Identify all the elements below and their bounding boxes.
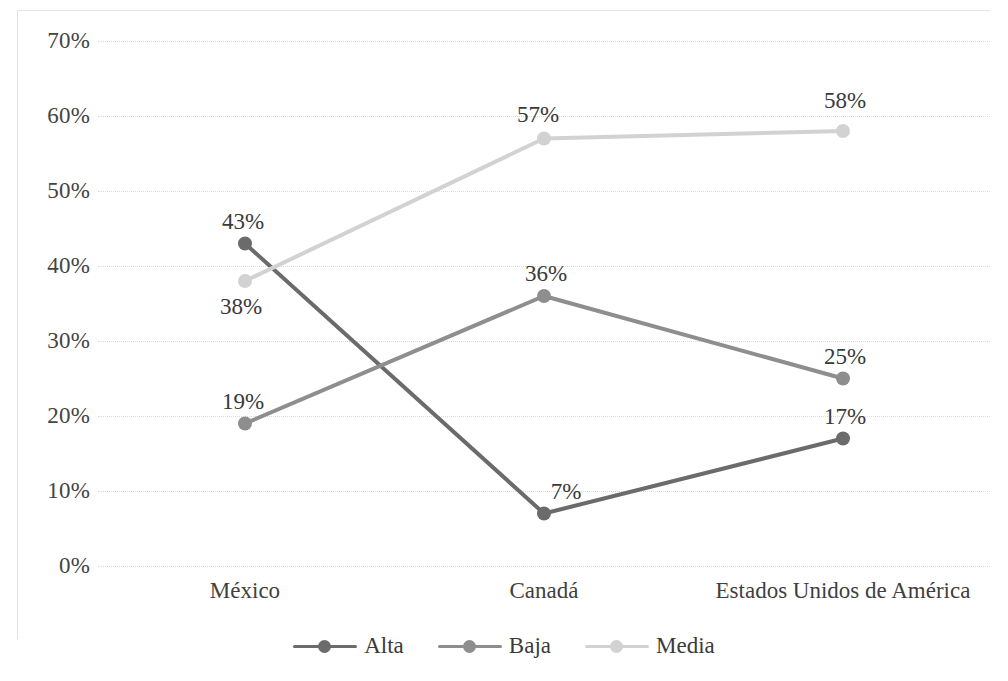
data-value-label: 57% [478,103,598,126]
chart-legend: AltaBajaMedia [0,634,1008,657]
data-point-marker [836,124,850,138]
line-chart: 70%60%50%40%30%20%10%0% MéxicoCanadáEsta… [0,0,1008,681]
data-point-marker [836,432,850,446]
series-line-media [245,131,843,281]
data-value-label: 43% [183,210,303,233]
data-value-label: 19% [183,390,303,413]
legend-item-baja[interactable]: Baja [438,634,551,657]
data-point-marker [238,237,252,251]
series-line-baja [245,296,843,424]
data-value-label: 17% [785,405,905,428]
legend-label: Media [656,634,715,657]
data-point-marker [537,289,551,303]
legend-marker-icon [438,637,502,655]
data-value-label: 25% [785,345,905,368]
legend-marker-icon [585,637,649,655]
y-axis-tick-label: 20% [10,404,90,427]
legend-item-alta[interactable]: Alta [293,634,404,657]
data-point-marker [537,132,551,146]
data-value-label: 7% [506,480,626,503]
data-value-label: 36% [486,262,606,285]
data-point-marker [537,507,551,521]
y-axis-tick-label: 60% [10,104,90,127]
y-axis-tick-label: 10% [10,479,90,502]
data-value-label: 58% [785,89,905,112]
legend-label: Baja [509,634,551,657]
y-axis-tick-label: 40% [10,254,90,277]
y-axis-tick-label: 0% [10,554,90,577]
y-axis-tick-label: 70% [10,29,90,52]
legend-marker-icon [293,637,357,655]
legend-item-media[interactable]: Media [585,634,715,657]
data-point-marker [836,372,850,386]
x-axis-tick-label: Estados Unidos de América [643,578,1008,604]
data-point-marker [238,417,252,431]
y-axis-tick-label: 50% [10,179,90,202]
legend-label: Alta [364,634,404,657]
data-value-label: 38% [181,295,301,318]
y-axis-tick-label: 30% [10,329,90,352]
data-point-marker [238,274,252,288]
